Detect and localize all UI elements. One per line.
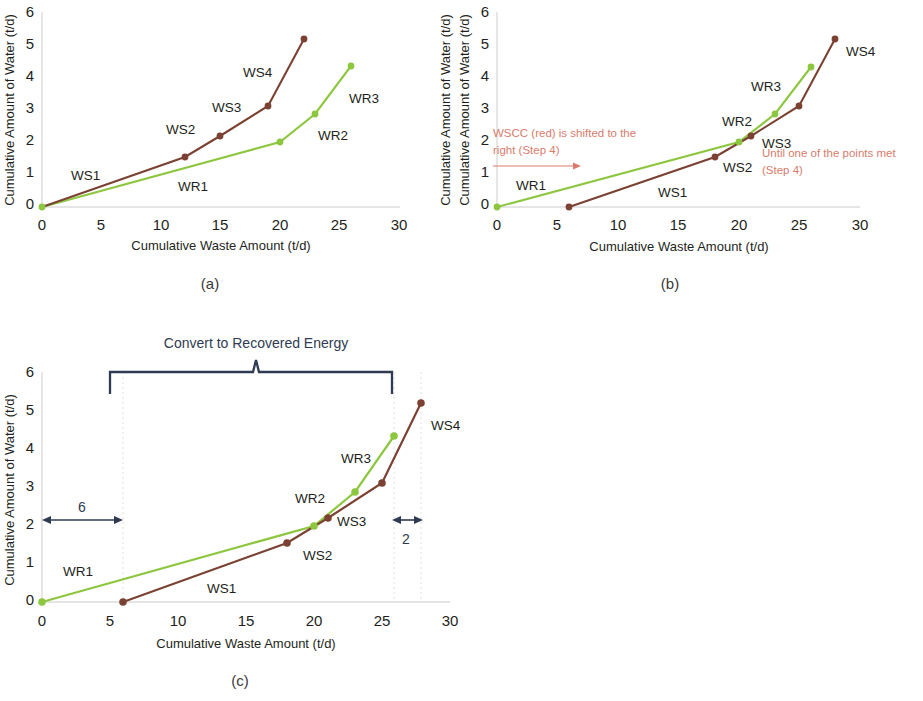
y-axis-title-a: Cumulative Amount of Water (t/d) xyxy=(2,14,17,206)
shift-arrow-head-icon xyxy=(573,163,581,170)
note-until-line1: Until one of the points met xyxy=(762,147,896,159)
source-point-b-ws1 xyxy=(712,154,719,161)
recovery-point-c-wr3 xyxy=(390,432,398,440)
chart-panel-c: 6 5 4 3 2 1 0 0 5 10 15 20 25 30 Cumulat… xyxy=(0,330,480,670)
x-tick-b-0: 0 xyxy=(493,216,501,233)
x-tick-a-15: 15 xyxy=(212,216,229,233)
bracket-c xyxy=(110,360,392,394)
y-tick-b-6: 6 xyxy=(481,3,489,20)
y-tick-a-5: 5 xyxy=(26,35,34,52)
recovery-point-c-0 xyxy=(38,598,46,606)
recovery-point-c-wr1 xyxy=(310,522,318,530)
y-tick-b-4: 4 xyxy=(481,67,489,84)
source-point-c-ws3 xyxy=(378,479,386,487)
recovery-point-a-0 xyxy=(39,204,46,211)
y-tick-b-3: 3 xyxy=(481,99,489,116)
label-c-ws4: WS4 xyxy=(431,418,461,433)
x-axis-title-a: Cumulative Waste Amount (t/d) xyxy=(131,238,310,253)
label-a-ws3: WS3 xyxy=(212,100,241,115)
y-tick-a-6: 6 xyxy=(26,3,34,20)
y-axis-title-b: Cumulative Amount of Water (t/d) xyxy=(457,14,472,206)
y-tick-a-0: 0 xyxy=(26,195,34,212)
label-c-wr2: WR2 xyxy=(295,491,325,506)
x-axis-title-b: Cumulative Waste Amount (t/d) xyxy=(589,239,768,254)
dimension-arrow-left-icon-2 xyxy=(392,516,401,524)
label-b-ws4: WS4 xyxy=(846,44,876,59)
x-tick-c-0: 0 xyxy=(38,612,46,629)
source-curve-b xyxy=(569,39,835,207)
dimension-label-2: 2 xyxy=(402,531,410,547)
bracket-label-c: Convert to Recovered Energy xyxy=(164,335,348,351)
y-tick-a-2: 2 xyxy=(26,131,34,148)
recovery-point-b-0 xyxy=(494,204,501,211)
label-b-ws2: WS2 xyxy=(723,160,752,175)
source-point-a-ws4 xyxy=(301,36,308,43)
label-b-wr3: WR3 xyxy=(751,79,781,94)
y-axis-title-c: Cumulative Amount of Water (t/d) xyxy=(2,394,17,586)
y-tick-a-4: 4 xyxy=(26,67,34,84)
y-tick-b-5: 5 xyxy=(481,35,489,52)
y-tick-c-6: 6 xyxy=(26,363,34,380)
x-tick-b-30: 30 xyxy=(852,216,869,233)
recovery-point-a-wr1 xyxy=(277,139,284,146)
y-tick-b-0: 0 xyxy=(481,195,489,212)
chart-c-svg: 6 5 4 3 2 1 0 0 5 10 15 20 25 30 Cumulat… xyxy=(0,330,480,670)
x-tick-c-5: 5 xyxy=(106,612,114,629)
y-tick-b-2: 2 xyxy=(481,131,489,148)
recovery-point-b-wr2 xyxy=(772,111,779,118)
x-tick-b-15: 15 xyxy=(670,216,687,233)
dimension-arrow-right-icon-6 xyxy=(114,516,123,524)
label-b-wr2: WR2 xyxy=(722,114,752,129)
source-point-c-ws2 xyxy=(324,514,332,522)
x-tick-a-10: 10 xyxy=(153,216,170,233)
x-tick-c-15: 15 xyxy=(238,612,255,629)
label-c-ws2: WS2 xyxy=(303,548,332,563)
label-a-wr2: WR2 xyxy=(318,128,348,143)
source-point-c-0 xyxy=(119,598,127,606)
source-point-b-0 xyxy=(566,204,573,211)
label-a-wr1: WR1 xyxy=(178,179,208,194)
y-tick-b-1: 1 xyxy=(481,163,489,180)
label-c-wr1: WR1 xyxy=(63,564,93,579)
y-tick-c-5: 5 xyxy=(26,401,34,418)
label-c-wr3: WR3 xyxy=(341,451,371,466)
x-tick-a-0: 0 xyxy=(38,216,46,233)
x-tick-b-10: 10 xyxy=(610,216,627,233)
recovery-point-b-wr3 xyxy=(808,64,815,71)
x-tick-a-20: 20 xyxy=(272,216,289,233)
dimension-label-6: 6 xyxy=(78,499,86,515)
source-point-a-ws3 xyxy=(265,103,272,110)
x-tick-a-30: 30 xyxy=(391,216,408,233)
y-axis-title-a-right: Cumulative Amount of Water (t/d) xyxy=(438,14,453,206)
source-point-b-ws3 xyxy=(796,103,803,110)
label-a-ws2: WS2 xyxy=(166,122,195,137)
note-shift-line1: WSCC (red) is shifted to the xyxy=(493,127,636,139)
x-tick-a-5: 5 xyxy=(97,216,105,233)
label-b-wr1: WR1 xyxy=(516,178,546,193)
label-c-ws3: WS3 xyxy=(337,514,366,529)
source-point-a-ws1 xyxy=(182,154,189,161)
label-c-ws1: WS1 xyxy=(207,581,236,596)
chart-a-svg: 6 5 4 3 2 1 0 0 5 10 15 20 25 30 Cumulat… xyxy=(0,0,460,265)
x-tick-c-30: 30 xyxy=(442,612,459,629)
x-tick-c-10: 10 xyxy=(170,612,187,629)
x-tick-b-20: 20 xyxy=(731,216,748,233)
source-curve-c xyxy=(123,403,421,602)
y-tick-a-3: 3 xyxy=(26,99,34,116)
chart-panel-b: 6 5 4 3 2 1 0 0 5 10 15 20 25 30 Cumulat… xyxy=(455,0,923,265)
recovery-point-a-wr3 xyxy=(348,63,355,70)
source-point-b-ws2 xyxy=(748,133,755,140)
label-a-wr3: WR3 xyxy=(349,91,379,106)
note-shift-line2: right (Step 4) xyxy=(493,144,560,156)
label-a-ws4: WS4 xyxy=(243,65,273,80)
recovery-point-c-wr2 xyxy=(351,488,359,496)
label-a-ws1: WS1 xyxy=(71,168,100,183)
y-tick-c-0: 0 xyxy=(26,591,34,608)
chart-b-svg: 6 5 4 3 2 1 0 0 5 10 15 20 25 30 Cumulat… xyxy=(455,0,923,265)
dimension-arrow-right-icon-2 xyxy=(414,516,423,524)
y-tick-a-1: 1 xyxy=(26,163,34,180)
source-point-c-ws4 xyxy=(417,399,425,407)
source-point-c-ws1 xyxy=(283,539,291,547)
x-tick-c-25: 25 xyxy=(374,612,391,629)
source-point-a-ws2 xyxy=(217,133,224,140)
